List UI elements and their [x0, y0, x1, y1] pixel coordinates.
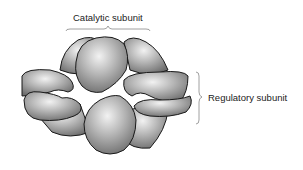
subunit-regulatory-left-lower — [24, 92, 81, 121]
catalytic-subunit-label: Catalytic subunit — [73, 12, 143, 23]
protein-diagram — [0, 0, 303, 170]
regulatory-subunit-label: Regulatory subunit — [208, 92, 287, 103]
catalytic-bracket — [66, 26, 150, 31]
subunit-catalytic-top-right — [124, 38, 168, 74]
subunit-regulatory-left-upper — [22, 70, 73, 96]
subunit-catalytic-top-center — [76, 37, 128, 93]
regulatory-bracket — [196, 72, 202, 124]
subunit-catalytic-bottom-center — [84, 96, 136, 155]
subunit-regulatory-right-upper — [124, 72, 188, 103]
